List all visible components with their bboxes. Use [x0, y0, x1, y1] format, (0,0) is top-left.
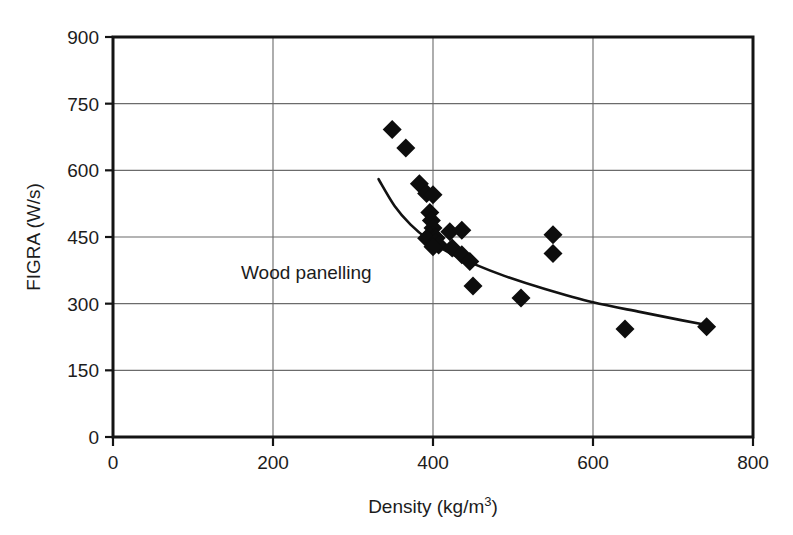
chart-annotations: Wood panelling — [241, 262, 372, 283]
chart-container: 0150300450600750900 0200400600800 Wood p… — [0, 0, 793, 535]
y-tick-label: 900 — [67, 27, 99, 48]
x-tick-label: 200 — [257, 452, 289, 473]
annotation-wood-panelling: Wood panelling — [241, 262, 372, 283]
x-axis-title-group: Density (kg/m3) — [368, 494, 498, 517]
x-axis-title-tail: ) — [492, 496, 498, 517]
y-tick-label: 150 — [67, 360, 99, 381]
x-axis-title-superscript: 3 — [484, 494, 491, 509]
y-tick-label: 300 — [67, 294, 99, 315]
chart-background — [0, 0, 793, 535]
y-tick-label: 600 — [67, 160, 99, 181]
scatter-chart: 0150300450600750900 0200400600800 Wood p… — [0, 0, 793, 535]
x-tick-label: 600 — [577, 452, 609, 473]
x-tick-label: 0 — [108, 452, 119, 473]
y-tick-label: 750 — [67, 94, 99, 115]
y-tick-label: 450 — [67, 227, 99, 248]
y-axis-title: FIGRA (W/s) — [23, 183, 44, 291]
x-axis-title: Density (kg/m3) — [368, 494, 498, 517]
x-tick-label: 400 — [417, 452, 449, 473]
x-axis-title-base: Density (kg/m — [368, 496, 484, 517]
x-tick-label: 800 — [737, 452, 769, 473]
y-tick-label: 0 — [88, 427, 99, 448]
y-axis-title-group: FIGRA (W/s) — [23, 183, 44, 291]
